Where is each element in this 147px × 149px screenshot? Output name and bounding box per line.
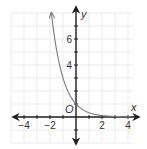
x-tick-label: 4 (125, 120, 131, 131)
y-tick-label: 4 (66, 60, 72, 71)
exponential-graph: −4−22446 x y O (0, 0, 147, 149)
y-axis-label: y (80, 8, 88, 20)
x-tick-label: −2 (44, 120, 56, 131)
y-tick-label: 6 (66, 34, 72, 45)
x-axis-label: x (130, 101, 137, 113)
origin-label: O (65, 103, 74, 115)
x-tick-label: 2 (99, 120, 105, 131)
x-tick-label: −4 (18, 120, 30, 131)
axes (13, 7, 139, 144)
